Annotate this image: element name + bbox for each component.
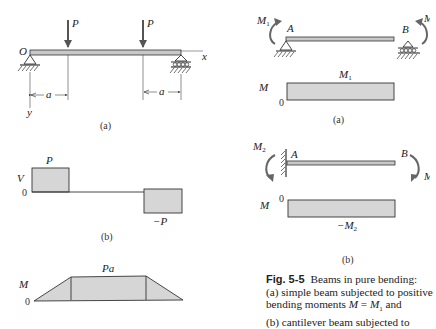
moment-b-axis-label: M: [259, 199, 270, 211]
moment-a-axis-label: M: [258, 81, 269, 93]
moment-a-value-label: M1: [338, 68, 352, 82]
beam-a: [286, 37, 394, 41]
moment-block-b: [288, 200, 395, 217]
moment-axis-label: M: [18, 278, 29, 290]
caption-text: and: [383, 298, 402, 310]
cantilever-beam: [287, 161, 395, 165]
caption-line-4: (b) cantilever beam subjected to: [266, 316, 436, 329]
load-arrow-1: [64, 20, 72, 48]
shear-positive-label: P: [45, 154, 53, 166]
right-beam-a-diagram: M1 M A B M 0 M1 (a): [256, 12, 430, 126]
sublabel-right-b: (b): [342, 254, 354, 266]
caption-math: M: [349, 298, 358, 310]
caption-line-2: (a) simple beam subjected to positive: [266, 286, 436, 299]
load-arrow-2: [139, 20, 147, 48]
pin-support-icon: [274, 41, 296, 57]
moment-block-a: [287, 83, 394, 100]
moment-left-label: M1: [256, 14, 270, 28]
caption-line-3: bending moments M = M1 and: [266, 298, 436, 316]
roller-support-icon: [397, 41, 420, 59]
moment-right-label: M: [423, 12, 430, 24]
bending-moment-diagram: M 0 Pa: [18, 262, 183, 307]
load-1-label: P: [71, 17, 79, 29]
pin-support-icon: [18, 55, 40, 71]
dim-right-label: a: [159, 85, 165, 97]
moment-zero-label: 0: [25, 296, 30, 307]
caption-text: bending moments: [266, 298, 349, 310]
shear-zero-label: 0: [22, 187, 27, 198]
beam: [30, 50, 181, 55]
roller-support-icon: [170, 55, 191, 73]
figure-number: Fig. 5-5: [266, 273, 305, 285]
sublabel-left-a: (a): [100, 120, 111, 132]
right-beam-b-diagram: M2 M A B M 0 −M2 (b): [252, 140, 430, 266]
shear-negative-block: [144, 189, 182, 213]
caption-title: Beams in pure bending:: [311, 273, 418, 285]
load-2-label: P: [146, 17, 154, 29]
point-a-label: A: [290, 148, 298, 160]
shear-positive-block: [32, 168, 69, 192]
y-axis-label: y: [26, 106, 32, 118]
moment-b-zero-label: 0: [279, 193, 284, 204]
moment-right-label: M: [423, 170, 430, 182]
sublabel-left-b: (b): [101, 231, 113, 243]
caption-line-1: Fig. 5-5Beams in pure bending:: [266, 273, 436, 286]
shear-axis-label: V: [17, 172, 25, 184]
fixed-wall-icon: [281, 149, 286, 177]
shear-force-diagram: V 0 P −P (b): [17, 154, 182, 243]
moment-trapezoid: [34, 276, 183, 301]
sublabel-right-a: (a): [333, 114, 344, 126]
moment-b-value-label: −M2: [337, 219, 358, 233]
x-axis-label: x: [201, 50, 207, 62]
point-a-label: A: [286, 22, 294, 34]
origin-label: O: [19, 45, 27, 57]
point-b-label: B: [401, 147, 408, 159]
left-beam-diagram: x O: [18, 17, 207, 132]
figure-caption: Fig. 5-5Beams in pure bending: (a) simpl…: [266, 273, 436, 329]
point-b-label: B: [402, 23, 409, 35]
moment-a-zero-label: 0: [279, 97, 284, 108]
caption-math: M: [370, 298, 379, 310]
moment-peak-label: Pa: [101, 262, 115, 274]
dim-left-label: a: [46, 88, 52, 100]
moment-left-label: M2: [252, 140, 266, 154]
shear-negative-label: −P: [153, 215, 167, 227]
caption-eq: =: [358, 298, 370, 310]
